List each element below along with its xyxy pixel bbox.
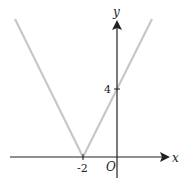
y-tick-label: 4 bbox=[104, 83, 111, 96]
x-axis-label: x bbox=[172, 151, 179, 165]
graph-canvas: x y O -2 4 bbox=[0, 0, 188, 185]
x-tick-label: -2 bbox=[77, 162, 88, 175]
origin-label: O bbox=[106, 160, 116, 174]
y-axis-label: y bbox=[112, 5, 120, 19]
v-curve bbox=[15, 19, 152, 157]
